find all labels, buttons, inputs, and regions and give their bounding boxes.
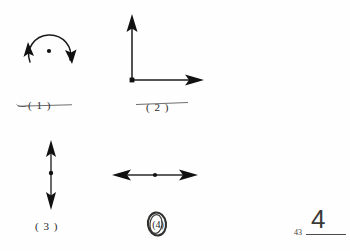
- figure-2-perpendicular-axes: [120, 12, 210, 90]
- figure-3-caption: ( 3 ): [35, 220, 58, 232]
- figure-4-svg: [112, 164, 198, 186]
- page-number: 43: [294, 228, 302, 237]
- figure-1-svg: [14, 22, 86, 78]
- figure-2-svg: [120, 12, 210, 90]
- figure-3-svg: [34, 140, 68, 210]
- center-dot: [153, 173, 157, 177]
- figure-4-caption-svg: (4): [142, 209, 172, 239]
- figure-4-caption: (4): [142, 209, 172, 239]
- margin-underline: [306, 234, 346, 235]
- center-dot: [49, 171, 53, 175]
- scanned-page: ( 1 ) ( 2 ) ( 3 ): [0, 0, 350, 251]
- figure-4-horizontal-double-arrow: [112, 164, 198, 186]
- figure-1-circular-double-arrow: [14, 22, 86, 78]
- rotation-arc: [29, 35, 71, 62]
- center-dot: [47, 49, 51, 53]
- figure-3-vertical-double-arrow: [34, 140, 68, 210]
- handwritten-number: 4: [311, 206, 325, 232]
- origin-dot: [130, 78, 135, 83]
- figure-4-caption-text: (4): [152, 219, 164, 231]
